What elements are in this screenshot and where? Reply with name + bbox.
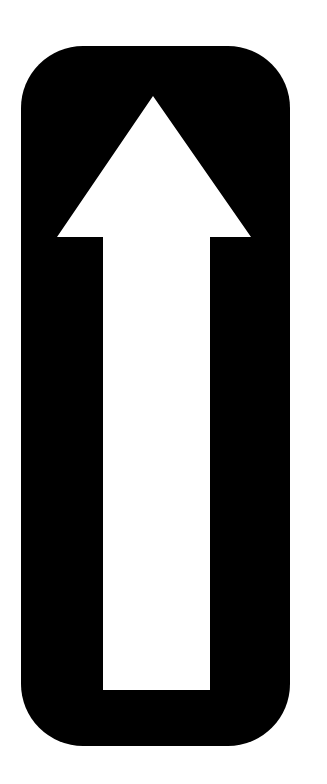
up-arrow-sign — [21, 46, 290, 746]
up-arrow-icon — [21, 46, 290, 746]
